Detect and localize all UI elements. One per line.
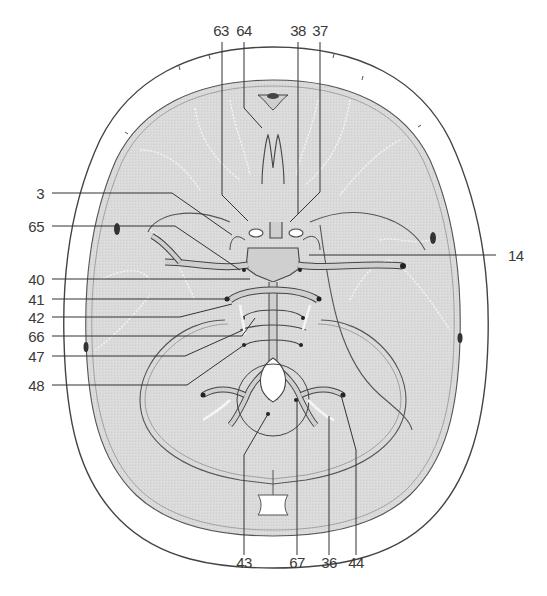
label-65: 65 (14, 219, 44, 234)
label-42: 42 (14, 310, 44, 325)
label-48: 48 (14, 378, 44, 393)
label-37: 37 (308, 23, 332, 38)
label-40: 40 (14, 272, 44, 287)
label-47: 47 (14, 349, 44, 364)
label-41: 41 (14, 292, 44, 307)
label-3: 3 (14, 186, 44, 201)
label-44: 44 (344, 555, 368, 570)
label-64: 64 (232, 23, 256, 38)
label-63: 63 (209, 23, 233, 38)
label-36: 36 (317, 555, 341, 570)
skull-base-diagram (0, 0, 547, 596)
label-67: 67 (285, 555, 309, 570)
label-66: 66 (14, 329, 44, 344)
crista-sinus (267, 93, 279, 99)
label-14: 14 (508, 248, 524, 263)
label-38: 38 (286, 23, 310, 38)
label-43: 43 (232, 555, 256, 570)
occipital-notch (258, 495, 288, 515)
